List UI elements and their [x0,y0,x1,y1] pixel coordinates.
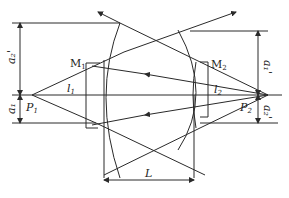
lens-diagram: a₂' a₁ a₁' a₂' M1 M2 l1 l2 P1 P2 L [0,0,289,198]
ray-mid-upper-cont [92,66,145,74]
ray-p2-upper [120,23,268,95]
diagram-svg: a₂' a₁ a₁' a₂' M1 M2 l1 l2 P1 P2 L [0,0,289,198]
ray-mid-lower-cont [92,115,145,125]
label-a1-left: a₁ [5,103,18,114]
lens1-surface-outer [106,23,120,178]
label-l1: l1 [67,82,75,96]
label-a2-right: a₂' [261,105,274,119]
ray-upper-out [124,12,236,52]
mirror-m2 [200,62,208,117]
ray-upper-left-out [98,12,120,23]
label-p1: P1 [25,101,38,115]
label-a2-prime-left: a₂' [5,50,18,64]
label-L: L [144,167,152,180]
label-l2: l2 [214,83,223,97]
label-a1-prime-right: a₁' [261,60,274,74]
ray-p2-mid-upper [145,74,268,95]
label-m2: M2 [211,58,227,72]
label-m1: M1 [70,57,86,71]
